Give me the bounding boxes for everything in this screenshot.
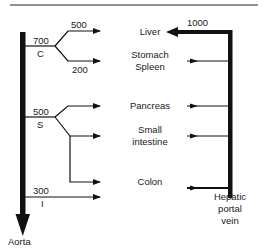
organ-liver: Liver (140, 26, 161, 37)
organ-pancreas: Pancreas (130, 100, 170, 111)
artery-c: 700 C 500 200 (25, 19, 100, 75)
liver-branch-flow: 500 (71, 19, 87, 30)
organ-stomach: Stomach (131, 49, 169, 60)
blood-flow-diagram: Aorta 700 C 500 200 500 S 300 I Liver St… (0, 0, 263, 249)
liver-inflow-arrow-icon (166, 27, 178, 37)
aorta-arrow-icon (16, 214, 31, 236)
organ-colon: Colon (138, 176, 163, 187)
arrow-icon (190, 104, 198, 109)
artery-i-label: I (41, 198, 44, 209)
arrow-icon (190, 186, 198, 191)
artery-s-label: S (37, 119, 43, 130)
artery-i-flow: 300 (33, 185, 49, 196)
portal-label-2: portal (218, 203, 242, 214)
portal-label-3: vein (221, 215, 238, 226)
organ-intestine: intestine (132, 136, 167, 147)
artery-c-label: C (37, 48, 44, 59)
hepatic-portal-vein: 1000 Hepatic portal vein (166, 17, 246, 226)
artery-s-flow: 500 (33, 106, 49, 117)
portal-label-1: Hepatic (214, 191, 246, 202)
artery-c-flow: 700 (33, 35, 49, 46)
artery-i: 300 I (25, 185, 100, 209)
aorta-label: Aorta (8, 236, 31, 247)
aorta: Aorta (8, 32, 31, 247)
artery-s: 500 S (25, 106, 100, 182)
organ-spleen: Spleen (135, 61, 165, 72)
arrow-icon (190, 134, 198, 139)
organ-small: Small (138, 124, 162, 135)
organ-labels: Liver Stomach Spleen Pancreas Small inte… (130, 26, 170, 187)
portal-flow: 1000 (187, 17, 208, 28)
stomach-branch-flow: 200 (72, 64, 88, 75)
arrow-icon (190, 59, 198, 64)
